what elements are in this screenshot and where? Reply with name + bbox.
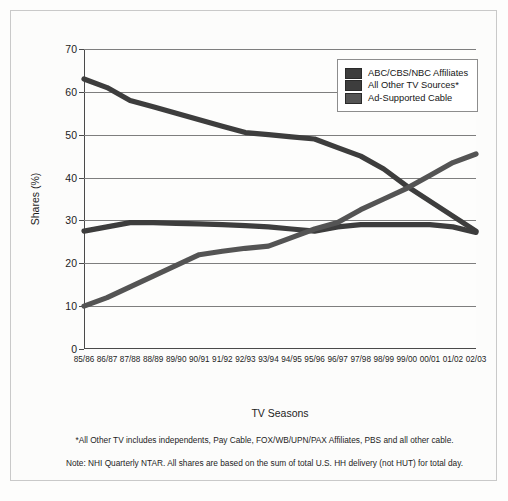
x-tick-label: 96/97	[327, 355, 348, 364]
x-axis-title: TV Seasons	[84, 407, 476, 419]
x-tick-label: 94/95	[281, 355, 302, 364]
y-tick-label: 0	[71, 343, 77, 355]
x-tick-label: 87/88	[120, 355, 141, 364]
y-tick-label: 20	[65, 257, 77, 269]
chart-frame: Shares (%) 010203040506070 85/8686/8787/…	[10, 10, 497, 481]
y-axis-title: Shares (%)	[29, 173, 41, 226]
x-tick-label: 89/90	[166, 355, 187, 364]
y-tick-label: 40	[65, 172, 77, 184]
x-tick-label: 92/93	[235, 355, 256, 364]
y-tick-mark	[79, 349, 84, 350]
series-line	[84, 223, 476, 233]
legend-swatch-icon	[345, 68, 362, 79]
y-tick-label: 30	[65, 214, 77, 226]
x-tick-label: 91/92	[212, 355, 233, 364]
chart-notes: *All Other TV includes independents, Pay…	[21, 435, 508, 481]
x-tick-label: 97/98	[350, 355, 371, 364]
legend-item-all-other: All Other TV Sources*	[345, 80, 468, 91]
legend-item-cable: Ad-Supported Cable	[345, 93, 468, 104]
chart-legend: ABC/CBS/NBC Affiliates All Other TV Sour…	[337, 59, 478, 112]
x-tick-label: 01/02	[443, 355, 464, 364]
y-tick-label: 70	[65, 43, 77, 55]
x-tick-label: 02/03	[466, 355, 487, 364]
x-tick-label: 85/86	[74, 355, 95, 364]
legend-swatch-icon	[345, 80, 362, 91]
x-tick-label: 88/89	[143, 355, 164, 364]
y-tick-label: 10	[65, 300, 77, 312]
footnote-source: Note: NHI Quarterly NTAR. All shares are…	[21, 458, 508, 469]
y-tick-label: 60	[65, 86, 77, 98]
y-tick-label: 50	[65, 129, 77, 141]
chart-page: Shares (%) 010203040506070 85/8686/8787/…	[0, 0, 508, 501]
x-tick-label: 86/87	[97, 355, 118, 364]
x-tick-label: 98/99	[374, 355, 395, 364]
legend-label: Ad-Supported Cable	[368, 93, 452, 104]
x-tick-label: 00/01	[420, 355, 441, 364]
legend-swatch-icon	[345, 93, 362, 104]
legend-item-affiliates: ABC/CBS/NBC Affiliates	[345, 68, 468, 79]
footnote-all-other-tv: *All Other TV includes independents, Pay…	[21, 435, 508, 446]
x-tick-label: 90/91	[189, 355, 210, 364]
legend-label: ABC/CBS/NBC Affiliates	[368, 68, 468, 79]
x-tick-label: 95/96	[304, 355, 325, 364]
legend-label: All Other TV Sources*	[368, 80, 459, 91]
x-tick-label: 99/00	[397, 355, 418, 364]
x-tick-label: 93/94	[258, 355, 279, 364]
